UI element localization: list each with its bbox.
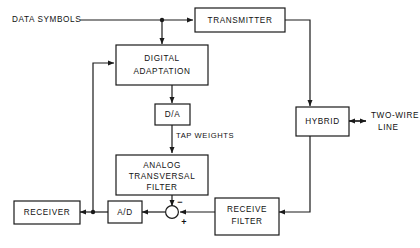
block-receive-filter-label-line1: RECEIVE: [227, 205, 267, 214]
junction-dot-data-symbols: [160, 18, 164, 22]
summing-junction-circle: [166, 206, 179, 219]
block-analog-transversal-filter[interactable]: ANALOG TRANSVERSAL FILTER: [116, 155, 208, 195]
diagram-svg: − + TRANSMITTER DIGITAL ADAPTATION D/A: [0, 0, 420, 248]
block-digital-adaptation-rect[interactable]: [116, 45, 208, 85]
block-digital-adaptation-label-line2: ADAPTATION: [133, 67, 190, 76]
block-analog-transversal-filter-label-line2: TRANSVERSAL: [129, 172, 196, 181]
block-transmitter[interactable]: TRANSMITTER: [195, 8, 285, 32]
label-data-symbols: DATA SYMBOLS: [12, 15, 81, 24]
wire-hybrid-to-receive-filter: [279, 135, 310, 212]
block-ad[interactable]: A/D: [108, 201, 142, 223]
summing-junction-minus-sign: −: [177, 197, 182, 207]
wire-transmitter-to-hybrid: [285, 20, 310, 106]
block-analog-transversal-filter-label-line3: FILTER: [146, 183, 177, 192]
block-diagram-canvas: − + TRANSMITTER DIGITAL ADAPTATION D/A: [0, 0, 420, 248]
label-tap-weights: TAP WEIGHTS: [176, 131, 234, 140]
block-receive-filter[interactable]: RECEIVE FILTER: [215, 198, 279, 235]
wire-ad-feedback-to-digital-adaptation: [93, 63, 114, 212]
block-hybrid[interactable]: HYBRID: [296, 107, 349, 136]
block-receiver-label: RECEIVER: [24, 208, 71, 217]
block-ad-label: A/D: [117, 208, 132, 217]
block-da-label: D/A: [165, 110, 180, 119]
block-receiver[interactable]: RECEIVER: [14, 201, 80, 224]
label-two-wire-line-line1: TWO-WIRE: [371, 111, 419, 120]
block-digital-adaptation-label-line1: DIGITAL: [144, 54, 179, 63]
block-da[interactable]: D/A: [155, 104, 190, 125]
label-two-wire-line-line2: LINE: [378, 123, 399, 132]
block-hybrid-label: HYBRID: [305, 117, 340, 126]
block-receive-filter-label-line2: FILTER: [231, 217, 262, 226]
block-digital-adaptation[interactable]: DIGITAL ADAPTATION: [116, 45, 208, 85]
block-analog-transversal-filter-label-line1: ANALOG: [143, 161, 181, 170]
summing-junction-plus-sign: +: [181, 217, 186, 227]
block-transmitter-label: TRANSMITTER: [208, 16, 273, 25]
